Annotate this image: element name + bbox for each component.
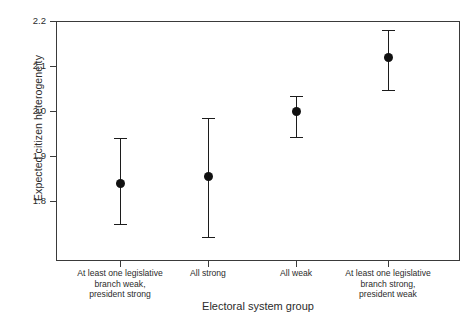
plot-panel [56,21,460,261]
error-bar-2 [296,96,297,137]
x-tick-mark-0 [120,261,121,267]
y-tick-mark-2.0 [50,111,56,112]
y-tick-label-2.0: 2.0 [6,105,46,116]
error-cap-upper-0 [114,138,127,139]
error-cap-upper-1 [202,118,215,119]
error-cap-lower-0 [114,224,127,225]
error-cap-upper-3 [382,30,395,31]
error-cap-upper-2 [290,96,303,97]
x-tick-mark-1 [208,261,209,267]
y-tick-label-1.9: 1.9 [6,150,46,161]
x-axis-title: Electoral system group [52,300,464,312]
y-tick-mark-2.2 [50,21,56,22]
error-cap-lower-2 [290,137,303,138]
data-point-1 [204,172,213,181]
chart-figure: Expected citizen heterogeneity 2.2 2.1 2… [0,0,468,321]
x-tick-label-3-line-2: president weak [323,289,453,300]
error-cap-lower-1 [202,237,215,238]
x-tick-mark-2 [296,261,297,267]
x-tick-label-3-line-0: At least one legislative [323,268,453,279]
data-point-0 [116,179,125,188]
x-tick-label-3-line-1: branch strong, [323,279,453,290]
data-point-2 [292,107,301,116]
y-tick-label-2.2: 2.2 [6,15,46,26]
x-tick-label-0-line-2: president strong [55,289,185,300]
y-tick-label-2.1: 2.1 [6,60,46,71]
y-axis-title: Expected citizen heterogeneity [32,8,44,248]
error-cap-lower-3 [382,90,395,91]
x-tick-label-0-line-1: branch weak, [55,279,185,290]
y-tick-mark-1.9 [50,156,56,157]
y-tick-mark-1.8 [50,201,56,202]
x-tick-mark-3 [388,261,389,267]
y-tick-label-1.8: 1.8 [6,195,46,206]
y-tick-mark-2.1 [50,66,56,67]
x-tick-label-3: At least one legislative branch strong, … [323,268,453,300]
data-point-3 [384,53,393,62]
